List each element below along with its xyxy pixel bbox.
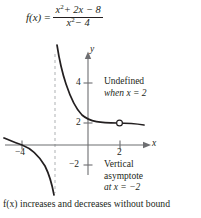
formula-fraction: x2+ 2x − 8 x2− 4	[53, 5, 102, 28]
curve-left-branch	[4, 138, 54, 195]
undefined-annotation: Undefined when x = 2	[104, 76, 147, 99]
asymptote-annotation-line2: asymptote	[104, 171, 143, 183]
formula-lhs: f(x)	[26, 12, 41, 23]
undefined-annotation-line1: Undefined	[104, 76, 147, 88]
asymptote-annotation-line3: at x = −2	[104, 182, 143, 194]
function-formula: f(x) = x2+ 2x − 8 x2− 4	[26, 6, 103, 29]
y-axis-label: y	[90, 44, 94, 54]
graph-plot	[0, 44, 201, 196]
asymptote-annotation-line1: Vertical	[104, 159, 143, 171]
numerator-rest: + 2x − 8	[64, 4, 101, 15]
formula-denominator: x2− 4	[65, 18, 92, 29]
y-tick-label-neg-2: −2	[69, 159, 79, 169]
figure-caption: f(x) increases and decreases without bou…	[3, 199, 201, 210]
undefined-annotation-line2: when x = 2	[104, 88, 147, 100]
open-circle-hole	[117, 120, 123, 126]
formula-equals: =	[44, 12, 50, 23]
x-tick-label-neg-4: −4	[15, 147, 25, 157]
y-tick-label-4: 4	[76, 77, 81, 87]
x-axis-label: x	[152, 138, 156, 148]
denominator-rest: − 4	[75, 17, 90, 28]
x-axis-arrowhead	[143, 142, 151, 148]
figure-container: f(x) = x2+ 2x − 8 x2− 4 y x 4 2	[0, 0, 201, 218]
y-tick-label-2: 2	[76, 117, 81, 127]
formula-numerator: x2+ 2x − 8	[53, 5, 102, 16]
x-tick-label-2: 2	[117, 147, 122, 157]
asymptote-annotation: Vertical asymptote at x = −2	[104, 159, 143, 194]
